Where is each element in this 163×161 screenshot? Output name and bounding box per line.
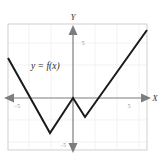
y-axis-label: Y	[70, 12, 76, 22]
y-tick-label-pos5: 5	[82, 40, 85, 46]
y-axis	[69, 25, 78, 153]
grid-lines	[8, 24, 147, 150]
x-axis	[4, 94, 151, 103]
graph-canvas: Y X −5 5 5 −5 y = f(x)	[0, 0, 163, 161]
x-axis-label: X	[151, 93, 158, 103]
x-tick-label-neg5: −5	[14, 103, 20, 109]
function-graph-figure: Y X −5 5 5 −5 y = f(x)	[0, 0, 163, 161]
function-annotation: y = f(x)	[30, 61, 60, 72]
y-tick-label-neg5: −5	[60, 142, 66, 148]
x-tick-label-pos5: 5	[128, 103, 131, 109]
